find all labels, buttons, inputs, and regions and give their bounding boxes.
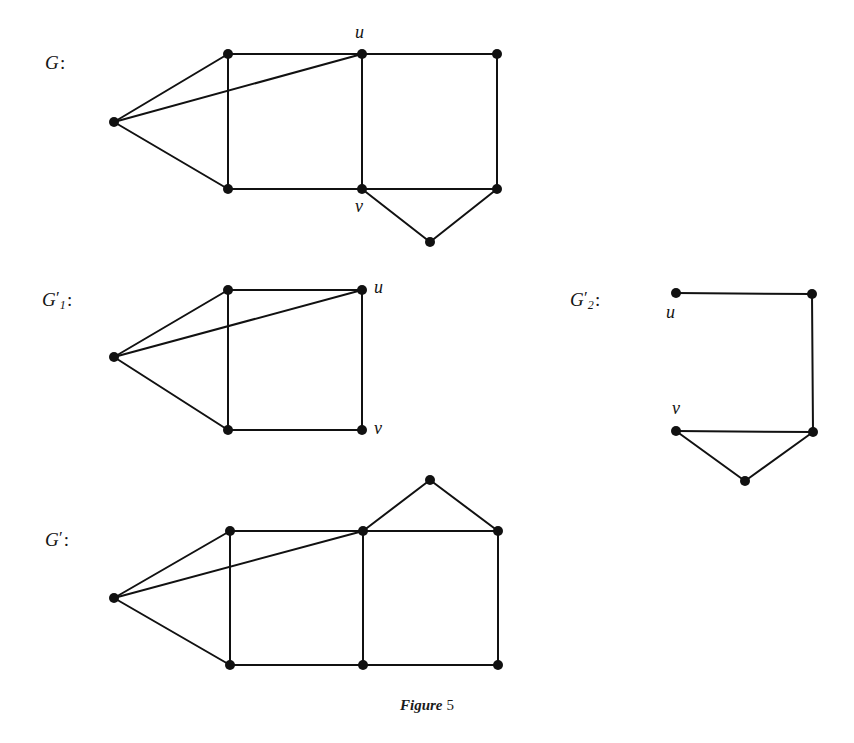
graph-vertex [357, 425, 367, 435]
graph-edge [114, 54, 228, 122]
vertex-label-v-G1prime: v [374, 418, 382, 439]
graph-label-letter: G [45, 529, 59, 550]
graph-edge [114, 122, 228, 189]
graph-G1prime [109, 285, 367, 435]
vertex-label-v-G: v [355, 196, 363, 217]
graph-edge [114, 598, 230, 665]
graph-vertex [223, 49, 233, 59]
graph-edge [676, 431, 813, 432]
graph-vertex [357, 49, 367, 59]
graph-edge [114, 54, 362, 122]
vertex-label-u-G: u [355, 22, 364, 43]
graph-edge [114, 531, 363, 598]
graph-vertex [493, 660, 503, 670]
graph-edge [114, 290, 228, 357]
graph-vertex [109, 593, 119, 603]
graph-G2prime [671, 288, 818, 486]
graph-edge [430, 189, 497, 242]
graph-edge [362, 189, 430, 242]
figure-container: G:uvG′1:uvG′2:uvG′: Figure5 [0, 0, 854, 743]
graph-label-colon: : [64, 529, 69, 550]
graph-edge [114, 531, 230, 598]
graph-label-colon: : [595, 289, 600, 310]
figure-caption: Figure5 [400, 697, 454, 714]
graph-vertex [671, 426, 681, 436]
graph-vertex [493, 526, 503, 536]
graph-vertex [425, 237, 435, 247]
graph-vertex [223, 285, 233, 295]
graph-label-colon: : [67, 289, 72, 310]
graph-label-Gprime: G′: [45, 528, 69, 551]
graph-Gprime [109, 475, 503, 670]
graph-vertex [109, 352, 119, 362]
graph-vertex [358, 526, 368, 536]
figure-caption-word: Figure [400, 697, 443, 713]
graph-G [109, 49, 502, 247]
graph-label-subscript: 1 [60, 298, 66, 312]
graph-vertex [740, 476, 750, 486]
graph-vertex [492, 49, 502, 59]
graph-vertex [425, 475, 435, 485]
graph-vertex [671, 288, 681, 298]
graph-vertex [357, 285, 367, 295]
graph-vertex [492, 184, 502, 194]
graph-edge [114, 290, 362, 357]
vertex-label-u-G1prime: u [374, 277, 383, 298]
vertex-label-v-G2prime: v [672, 398, 680, 419]
graph-vertex [225, 660, 235, 670]
graph-label-G2prime: G′2: [570, 288, 601, 313]
graph-label-G1prime: G′1: [42, 288, 73, 313]
graph-label-colon: : [60, 52, 65, 73]
graph-vertex [807, 289, 817, 299]
graph-label-letter: G [42, 289, 56, 310]
graph-edge [114, 357, 228, 430]
figure-caption-number: 5 [447, 697, 455, 713]
vertex-label-u-G2prime: u [666, 302, 675, 323]
graph-edge [430, 480, 498, 531]
graph-edge [363, 480, 430, 531]
graph-vertex [357, 184, 367, 194]
graph-label-letter: G [570, 289, 584, 310]
graph-label-letter: G [45, 52, 59, 73]
figure-drawing-canvas [0, 0, 854, 743]
graph-vertex [109, 117, 119, 127]
graph-label-prime: ′ [59, 528, 63, 547]
graph-vertex [223, 184, 233, 194]
graph-edge [812, 294, 813, 432]
graph-vertex [225, 526, 235, 536]
graph-edge [745, 432, 813, 481]
graph-label-subscript: 2 [588, 298, 594, 312]
graph-edge [676, 293, 812, 294]
graph-edge [676, 431, 745, 481]
graph-vertex [808, 427, 818, 437]
graph-vertex [223, 425, 233, 435]
graph-vertex [358, 660, 368, 670]
graph-label-G: G: [45, 52, 65, 74]
